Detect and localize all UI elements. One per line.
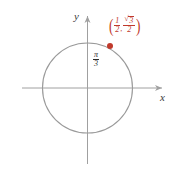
x-axis-label: x (160, 92, 165, 103)
sqrt-icon: √ 3 (124, 16, 134, 25)
plot-canvas (0, 0, 174, 172)
radical-sign: √ (124, 15, 128, 23)
angle-fraction: π 3 (93, 51, 99, 68)
unit-circle-figure: y x π 3 ( 1 2 , √ 3 2 ) (0, 0, 174, 172)
terminal-point-marker (107, 43, 113, 49)
y-coordinate-denominator: 2 (123, 26, 135, 34)
angle-denominator: 3 (93, 60, 99, 68)
y-axis-label: y (74, 11, 79, 22)
radicand: 3 (128, 16, 134, 25)
angle-label-pi-over-3: π 3 (93, 51, 99, 68)
y-coordinate-fraction: √ 3 2 (123, 16, 135, 34)
y-coordinate-numerator: √ 3 (123, 16, 135, 26)
coordinate-label: ( 1 2 , √ 3 2 ) (108, 16, 142, 34)
open-paren: ( (109, 18, 113, 33)
close-paren: ) (136, 18, 140, 33)
